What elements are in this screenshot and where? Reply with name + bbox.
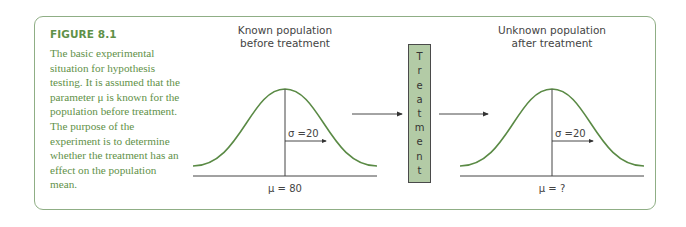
known-population-title-2: before treatment (215, 37, 355, 50)
treatment-letter: T (416, 51, 422, 62)
treatment-letter: a (416, 94, 422, 105)
unknown-population-title-2: after treatment (482, 37, 622, 50)
treatment-box: T r e a t m e n t (408, 44, 431, 183)
known-mu-label: μ = 80 (255, 182, 315, 195)
treatment-letter: e (416, 136, 422, 147)
treatment-letter: e (416, 80, 422, 91)
treatment-letter: m (415, 122, 425, 133)
unknown-population-curve (460, 89, 644, 176)
unknown-mu-label: μ = ? (522, 182, 582, 195)
treatment-letter: r (417, 65, 421, 76)
treatment-letter: t (418, 165, 422, 176)
unknown-sigma-label: σ =20 (555, 127, 586, 140)
known-population-curve (193, 89, 377, 176)
known-population-title-1: Known population (215, 24, 355, 37)
unknown-population-title-1: Unknown population (482, 24, 622, 37)
known-sigma-label: σ =20 (288, 127, 319, 140)
treatment-letter: t (418, 108, 422, 119)
treatment-letter: n (416, 151, 422, 162)
